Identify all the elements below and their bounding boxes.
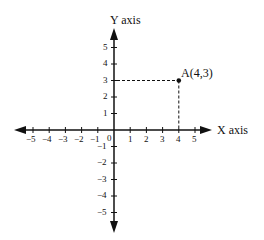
x-tick-label: −5	[26, 134, 36, 144]
y-tick-label: −3	[97, 174, 107, 184]
y-tick-label: 4	[103, 58, 108, 68]
point-a-label: A(4,3)	[181, 66, 213, 81]
x-tick-label: 3	[160, 134, 165, 144]
y-tick-label: 2	[103, 91, 108, 101]
x-tick-label: −2	[74, 134, 84, 144]
x-axis-left-arrow-icon	[14, 126, 26, 134]
x-tick-label: 5	[192, 134, 197, 144]
y-tick-label: 1	[103, 108, 108, 118]
y-axis-up-arrow-icon	[110, 28, 118, 40]
y-tick-label: −2	[97, 157, 107, 167]
x-axis-title: X axis	[217, 123, 248, 138]
y-axis-down-arrow-icon	[110, 221, 118, 233]
x-tick-label: 2	[144, 134, 149, 144]
y-tick-label: 3	[103, 75, 108, 85]
y-tick-label: −1	[97, 141, 107, 151]
x-tick-label: −3	[58, 134, 68, 144]
x-tick-label: 1	[128, 134, 133, 144]
coordinate-plane	[0, 0, 264, 240]
x-tick-label: 4	[176, 134, 181, 144]
y-tick-label: −5	[97, 207, 107, 217]
y-axis-title: Y axis	[110, 13, 141, 28]
y-tick-label: 5	[103, 42, 108, 52]
origin-label: 0	[107, 133, 112, 143]
x-tick-label: −4	[42, 134, 52, 144]
x-axis-right-arrow-icon	[200, 126, 212, 134]
y-tick-label: −4	[97, 190, 107, 200]
